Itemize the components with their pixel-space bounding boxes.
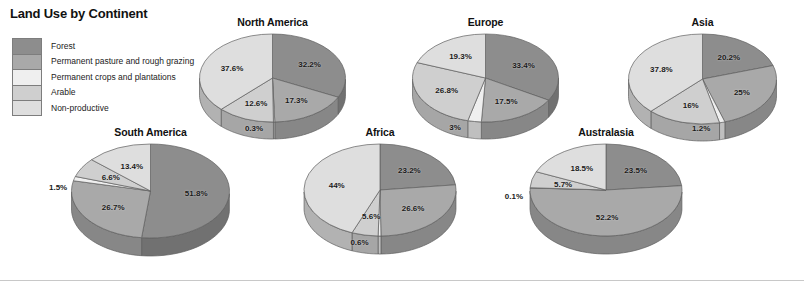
- pie-slice-label: 20.2%: [717, 53, 740, 62]
- pie-slice-label: 32.2%: [298, 60, 321, 69]
- pie-slice-label: 16%: [683, 101, 699, 110]
- legend-item-label: Permanent crops and plantations: [51, 73, 176, 82]
- page-title: Land Use by Continent: [10, 6, 147, 21]
- land-use-chart-page: Land Use by Continent ForestPermanent pa…: [0, 0, 804, 281]
- pie-slice-label: 23.2%: [398, 166, 421, 175]
- legend-item-label: Arable: [51, 88, 76, 97]
- legend-item-label: Permanent pasture and rough grazing: [51, 57, 194, 66]
- pie-slice-label: 26.8%: [435, 86, 458, 95]
- pie-slice-label: 51.8%: [185, 188, 208, 197]
- pie-slice-label: 18.5%: [570, 163, 593, 172]
- pie-chart-canvas: 23.2%26.6%0.6%5.6%44%: [290, 141, 470, 257]
- pie-slice-label: 25%: [734, 87, 750, 96]
- pie-slice-label: 12.6%: [245, 98, 268, 107]
- pie-slice-label: 6.6%: [102, 173, 120, 182]
- pie-slice-label: 37.6%: [221, 64, 244, 73]
- legend-item-label: Non-productive: [51, 104, 109, 113]
- pie-slice-label: 52.2%: [596, 212, 619, 221]
- legend-item: Arable: [12, 85, 212, 101]
- pie-slice-label: 0.1%: [505, 191, 523, 200]
- legend-item: Permanent crops and plantations: [12, 69, 212, 85]
- pie-chart-caption: North America: [185, 16, 360, 28]
- pie-slice-label: 19.3%: [449, 52, 472, 61]
- pie-slice-label: 5.6%: [362, 212, 380, 221]
- pie-chart-caption: Europe: [398, 16, 573, 28]
- pie-slice-label: 26.7%: [102, 202, 125, 211]
- legend-swatch: [12, 38, 42, 54]
- pie-slice-label: 23.5%: [624, 166, 647, 175]
- pie-slice-label: 17.5%: [495, 97, 518, 106]
- pie-slice-label: 0.3%: [245, 123, 263, 132]
- legend-item-label: Forest: [51, 42, 75, 51]
- legend-swatch: [12, 85, 42, 101]
- pie-slice-label: 37.8%: [650, 64, 673, 73]
- pie-slice-label: 17.3%: [285, 96, 308, 105]
- legend: ForestPermanent pasture and rough grazin…: [12, 38, 212, 116]
- pie-chart-caption: South America: [58, 126, 243, 138]
- pie-slice-label: 44%: [329, 181, 345, 190]
- legend-item: Forest: [12, 38, 212, 54]
- pie-chart-canvas: 51.8%26.7%1.5%6.6%13.4%: [58, 141, 243, 259]
- pie-slice-label: 26.6%: [402, 203, 425, 212]
- pie-slice-label: 33.4%: [512, 60, 535, 69]
- legend-swatch: [12, 54, 42, 70]
- pie-chart-caption: Africa: [290, 126, 470, 138]
- pie-slice-label: 1.5%: [49, 183, 67, 192]
- legend-item: Permanent pasture and rough grazing: [12, 54, 212, 70]
- pie-chart-caption: Australasia: [516, 126, 696, 138]
- pie-slice-label: 5.7%: [554, 179, 572, 188]
- legend-swatch: [12, 100, 42, 116]
- legend-item: Non-productive: [12, 100, 212, 116]
- legend-swatch: [12, 69, 42, 85]
- pie-chart-caption: Asia: [615, 16, 790, 28]
- pie-chart-canvas: 23.5%52.2%0.1%5.7%18.5%: [516, 141, 696, 257]
- pie-slice-label: 0.6%: [350, 237, 368, 246]
- pie-slice-label: 13.4%: [120, 162, 143, 171]
